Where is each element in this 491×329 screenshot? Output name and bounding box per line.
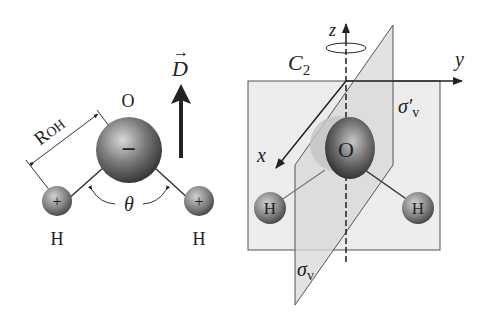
angle-arc-right xyxy=(143,190,166,204)
axis-x-label: x xyxy=(256,144,266,166)
right-diagram: z C2 y x O H H σ′v σv xyxy=(248,20,464,305)
left-diagram: ROH − O + H + H θ D → xyxy=(26,43,214,249)
positive-charge-icon: + xyxy=(194,193,203,210)
axis-z-label: z xyxy=(328,20,336,40)
bond-left xyxy=(67,168,103,200)
bond-right xyxy=(155,168,190,200)
hydrogen-label-left: H xyxy=(51,229,64,249)
axis-y-label: y xyxy=(453,48,464,71)
water-molecule-figure: ROH − O + H + H θ D → z C2 xyxy=(0,0,491,329)
hydrogen-label-right: H xyxy=(193,229,206,249)
oxygen-label: O xyxy=(122,91,135,111)
oxygen-label: O xyxy=(338,137,354,162)
angle-label: θ xyxy=(124,193,134,215)
hydrogen-label-left: H xyxy=(264,199,276,218)
bond-length-label: ROH xyxy=(30,113,69,150)
positive-charge-icon: + xyxy=(52,193,61,210)
dimension-extension-right xyxy=(97,110,109,126)
c2-axis-label: C2 xyxy=(288,50,310,78)
negative-charge-icon: − xyxy=(122,135,137,164)
vector-arrow-icon: → xyxy=(173,43,189,60)
angle-arc-left xyxy=(92,190,115,204)
hydrogen-label-right: H xyxy=(412,199,424,218)
